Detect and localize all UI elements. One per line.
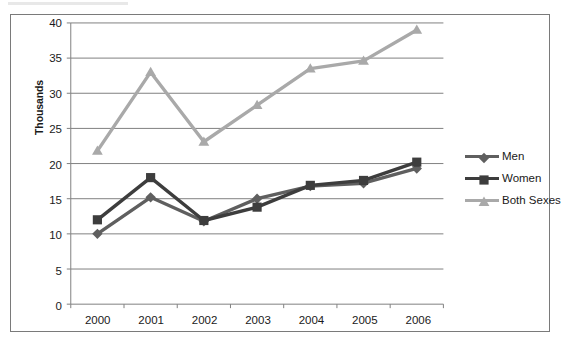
data-point-marker [252,194,262,204]
y-axis-tick-label: 10 [49,229,62,241]
legend-marker-diamond-icon [478,152,490,164]
series-group [92,25,422,239]
data-point-marker [146,173,155,182]
data-point-marker [411,25,422,34]
series-line [97,162,416,220]
data-point-marker [199,216,208,225]
x-axis-tick-label: 2004 [299,314,325,326]
legend-key-swatch [465,150,499,162]
y-axis-tick-label: 0 [56,300,62,312]
y-axis-tick-label: 40 [49,17,62,29]
data-point-marker [479,197,490,206]
x-axis-tick-label: 2002 [192,314,218,326]
data-point-marker [359,176,368,185]
legend-item-label: Men [502,150,524,162]
chart-screenshot: 0510152025303540 20002001200220032004200… [0,0,562,347]
y-axis-tick-label: 30 [49,88,62,100]
data-point-marker [306,181,315,190]
data-point-marker [412,158,421,167]
data-point-marker [479,153,489,163]
x-axis-tick-label: 2005 [352,314,378,326]
legend-item-both-sexes[interactable]: Both Sexes [465,189,561,211]
data-point-marker [253,203,262,212]
gridlines-group [71,23,444,304]
data-point-marker [93,215,102,224]
x-axis-tick-label: 2001 [138,314,164,326]
legend-item-women[interactable]: Women [465,167,561,189]
y-axis-tick-label: 35 [49,52,62,64]
page-crop-artifact [8,2,128,5]
chart-outer-frame: 0510152025303540 20002001200220032004200… [10,14,550,332]
axes-group [67,23,444,308]
y-axis-tick-label: 5 [56,265,62,277]
x-axis-tick-label: 2003 [245,314,271,326]
y-axis-tick-label: 20 [49,159,62,171]
y-axis-title: Thousands [33,80,45,135]
data-point-marker [145,67,156,76]
legend-key-swatch [465,172,499,184]
legend-item-men[interactable]: Men [465,145,561,167]
legend-item-label: Women [502,172,541,184]
x-axis-tick-label: 2006 [405,314,431,326]
y-axis-tick-label: 15 [49,194,62,206]
legend-item-label: Both Sexes [502,194,561,206]
chart-legend: MenWomenBoth Sexes [465,145,561,211]
legend-key-swatch [465,194,499,206]
legend-marker-square-icon [478,174,490,186]
data-point-marker [479,175,488,184]
series-line [97,30,416,151]
y-axis-tick-label: 25 [49,123,62,135]
legend-marker-triangle-icon [478,196,490,208]
x-axis-tick-label: 2000 [85,314,111,326]
